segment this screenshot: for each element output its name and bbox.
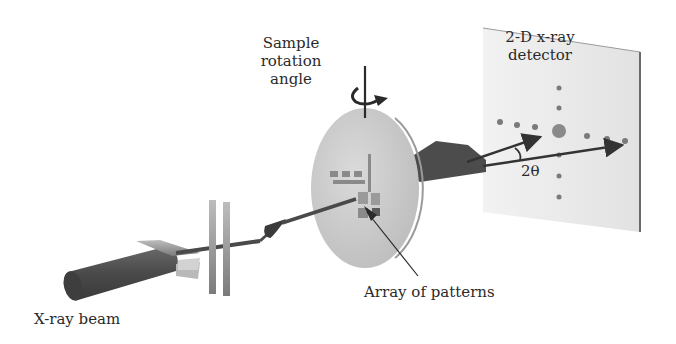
detector-label: 2-D x-ray detector: [485, 28, 595, 64]
sample-rotation-label: Sample rotation angle: [252, 34, 330, 88]
diffracted-cone: [414, 141, 486, 182]
array-of-patterns-label: Array of patterns: [364, 283, 495, 301]
two-theta-label: 2θ: [521, 162, 540, 180]
xray-beam-label: X-ray beam: [34, 310, 120, 328]
xray-source: [60, 246, 177, 303]
sample-disk: [311, 108, 423, 268]
